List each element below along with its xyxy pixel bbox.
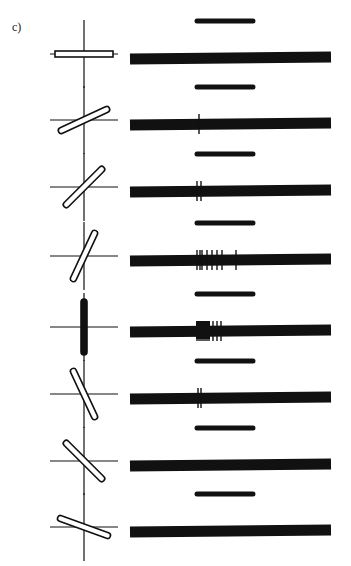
response-trace — [130, 530, 331, 532]
response-trace — [130, 397, 331, 399]
response-trace — [130, 259, 331, 261]
response-trace — [130, 57, 331, 59]
response-trace — [130, 190, 331, 192]
spike-burst — [196, 321, 210, 339]
stimulus-bar-icon — [81, 299, 87, 355]
response-trace — [130, 123, 331, 125]
orientation-tuning-diagram — [0, 0, 351, 566]
stimulus-bar-icon — [55, 51, 113, 57]
response-trace — [130, 464, 331, 466]
response-trace — [130, 330, 331, 332]
